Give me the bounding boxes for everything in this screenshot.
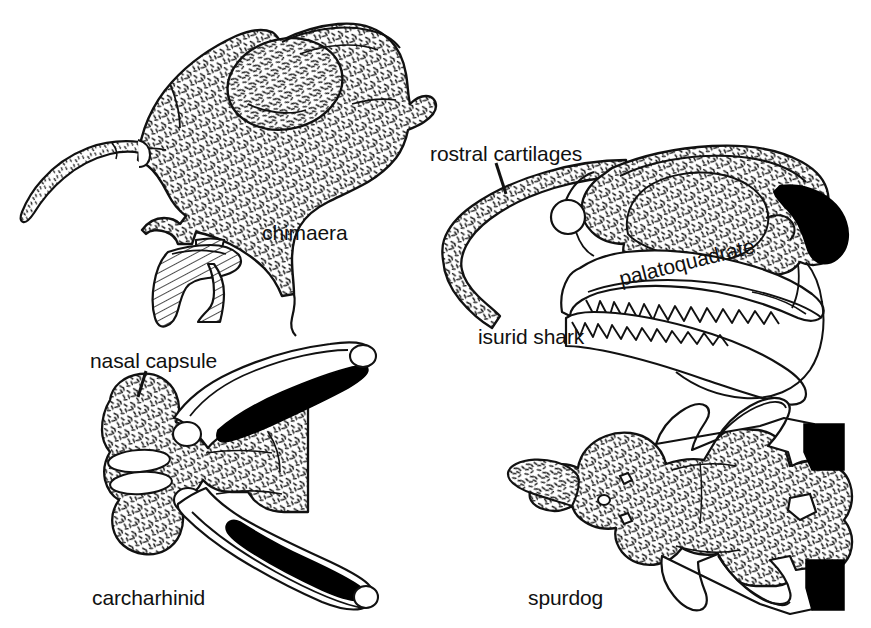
- panel-label-isurid-shark: isurid shark: [478, 326, 584, 347]
- spurdog-lower-jaw-black: [806, 560, 844, 610]
- chimaera-tooth-plate-main: [153, 245, 241, 327]
- spurdog-foramen-2: [598, 495, 610, 505]
- panel-chimaera: [21, 24, 436, 336]
- panel-spurdog: [508, 398, 852, 614]
- anatomy-line-art: [0, 0, 871, 628]
- chimaera-occipital-edge: [291, 294, 296, 336]
- spurdog-upper-jaw-black: [804, 424, 844, 470]
- figure-canvas: chimaera rostral cartilages palatoquadra…: [0, 0, 871, 628]
- panel-label-carcharhinid: carcharhinid: [92, 587, 205, 608]
- panel-label-spurdog: spurdog: [528, 587, 603, 608]
- carcharhinid-lower-jaw-tip: [354, 586, 378, 608]
- isurid-ethmoid-condyle: [551, 200, 585, 234]
- chimaera-rostral-process: [21, 141, 140, 222]
- panel-label-chimaera: chimaera: [262, 222, 348, 243]
- carcharhinid-upper-jaw-tip: [350, 345, 376, 367]
- callout-label-rostral-cartilages: rostral cartilages: [430, 143, 582, 164]
- carcharhinid-condyle-upper: [173, 422, 201, 446]
- callout-label-nasal-capsule: nasal capsule: [90, 350, 217, 371]
- isurid-nasal-fold: [576, 232, 594, 256]
- isurid-meckels-cartilage: [566, 312, 806, 405]
